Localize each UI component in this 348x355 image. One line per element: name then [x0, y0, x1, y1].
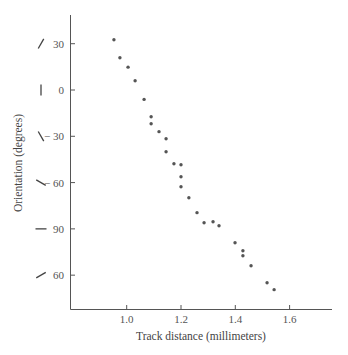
- x-tick-label: 1.4: [228, 313, 242, 325]
- x-ticks: 1.01.21.41.6: [120, 305, 297, 325]
- data-point: [211, 220, 214, 223]
- scatter-chart: 1.01.21.41.6 300− 30− 609060 Track dista…: [0, 0, 348, 355]
- data-point: [149, 122, 152, 125]
- orientation-glyph-icon: [36, 272, 46, 278]
- data-point: [112, 38, 115, 41]
- data-point: [241, 254, 244, 257]
- data-point: [149, 115, 152, 118]
- data-point: [118, 56, 121, 59]
- data-point: [233, 241, 236, 244]
- orientation-glyph-icon: [38, 39, 44, 49]
- data-point: [241, 249, 244, 252]
- data-point: [217, 224, 220, 227]
- x-tick-label: 1.6: [283, 313, 297, 325]
- y-axis-label: Orientation (degrees): [12, 114, 25, 212]
- y-tick-label: 60: [53, 269, 65, 281]
- data-point: [179, 163, 182, 166]
- data-point: [265, 281, 268, 284]
- data-points: [112, 38, 276, 291]
- y-tick-label: 0: [59, 84, 65, 96]
- y-tick-label: − 60: [44, 177, 64, 189]
- orientation-glyph-icon: [38, 132, 44, 142]
- data-point: [179, 185, 182, 188]
- data-point: [172, 162, 175, 165]
- y-tick-label: − 30: [44, 130, 64, 142]
- data-point: [195, 211, 198, 214]
- data-point: [157, 130, 160, 133]
- data-point: [187, 196, 190, 199]
- data-point: [272, 288, 275, 291]
- x-tick-label: 1.2: [174, 313, 188, 325]
- data-point: [164, 150, 167, 153]
- data-point: [179, 175, 182, 178]
- data-point: [133, 79, 136, 82]
- data-point: [142, 98, 145, 101]
- data-point: [249, 264, 252, 267]
- y-ticks: 300− 30− 609060: [36, 38, 76, 281]
- y-tick-label: 30: [53, 38, 65, 50]
- data-point: [202, 221, 205, 224]
- data-point: [126, 65, 129, 68]
- data-point: [164, 137, 167, 140]
- x-tick-label: 1.0: [120, 313, 134, 325]
- y-tick-label: 90: [53, 223, 65, 235]
- axes: [71, 15, 333, 310]
- x-axis-label: Track distance (millimeters): [136, 330, 266, 343]
